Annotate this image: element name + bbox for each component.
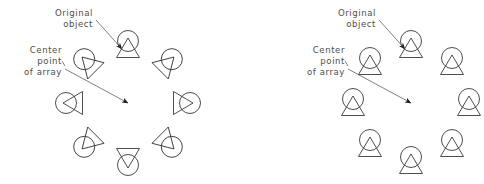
marker-circle xyxy=(157,44,187,74)
center-point-leader-line xyxy=(65,69,128,103)
original-object-label: Originalobject xyxy=(338,8,376,29)
marker-circle xyxy=(360,130,381,151)
marker-circle xyxy=(459,89,480,110)
array-item-symbol[interactable] xyxy=(174,92,201,115)
marker-triangle xyxy=(152,127,182,157)
marker-circle xyxy=(180,93,201,114)
marker-circle xyxy=(343,89,364,110)
original-object-symbol[interactable] xyxy=(117,31,140,58)
array-item-symbol[interactable] xyxy=(117,149,140,176)
polar-array-illustration: OriginalobjectCenterpointof arrayOrigina… xyxy=(0,0,484,184)
marker-triangle xyxy=(74,49,104,79)
label-line: Original xyxy=(338,8,376,18)
center-point-label: Centerpointof array xyxy=(307,45,345,77)
marker-circle xyxy=(69,44,99,74)
array-item-symbol[interactable] xyxy=(152,44,187,79)
array-item-symbol[interactable] xyxy=(152,127,187,162)
array-item-symbol[interactable] xyxy=(400,147,423,174)
marker-triangle xyxy=(152,49,182,79)
original-object-label: Originalobject xyxy=(55,8,93,29)
label-line: object xyxy=(346,19,376,29)
array-item-symbol[interactable] xyxy=(359,130,382,157)
panel-rotated: OriginalobjectCenterpointof array xyxy=(24,8,200,176)
label-line: Original xyxy=(55,8,93,18)
marker-circle xyxy=(442,130,463,151)
array-item-symbol[interactable] xyxy=(69,127,104,162)
array-item-symbol[interactable] xyxy=(359,48,382,75)
label-line: point xyxy=(320,56,345,66)
marker-circle xyxy=(401,147,422,168)
marker-circle xyxy=(69,132,99,162)
marker-circle xyxy=(442,48,463,69)
label-line: Center xyxy=(30,45,62,55)
center-point-leader-tick xyxy=(345,61,348,66)
marker-circle xyxy=(118,155,139,176)
diagram-geometry: OriginalobjectCenterpointof arrayOrigina… xyxy=(24,8,480,176)
label-line: point xyxy=(37,56,62,66)
array-item-symbol[interactable] xyxy=(56,92,83,115)
marker-circle xyxy=(360,48,381,69)
array-item-symbol[interactable] xyxy=(458,89,481,116)
marker-triangle xyxy=(74,127,104,157)
center-point-leader-tick xyxy=(62,61,65,66)
label-line: Center xyxy=(313,45,345,55)
label-line: of array xyxy=(24,67,62,77)
diagram-canvas: OriginalobjectCenterpointof arrayOrigina… xyxy=(0,0,484,184)
array-item-symbol[interactable] xyxy=(441,48,464,75)
label-line: object xyxy=(63,19,93,29)
marker-circle xyxy=(56,93,77,114)
center-point-label: Centerpointof array xyxy=(24,45,62,77)
marker-circle xyxy=(118,31,139,52)
array-item-symbol[interactable] xyxy=(441,130,464,157)
marker-circle xyxy=(157,132,187,162)
marker-circle xyxy=(401,31,422,52)
label-line: of array xyxy=(307,67,345,77)
array-item-symbol[interactable] xyxy=(342,89,365,116)
panel-non-rotated: OriginalobjectCenterpointof array xyxy=(307,8,480,174)
original-object-symbol[interactable] xyxy=(400,31,423,58)
